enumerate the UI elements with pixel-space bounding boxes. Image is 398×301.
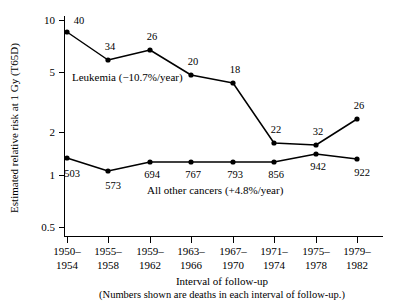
x-tick-label-bottom: 1974 <box>263 259 286 271</box>
y-tick-label: 5 <box>50 66 56 78</box>
x-axis-ticks <box>68 237 358 243</box>
data-point <box>313 142 318 147</box>
y-tick-label: 10 <box>44 14 56 26</box>
line-chart-canvas: 10 5 2 1 0.5 1950– 1954 195 <box>0 0 398 301</box>
data-point-label: 18 <box>230 64 241 75</box>
data-point-label: 793 <box>227 169 243 180</box>
x-tick-label-bottom: 1966 <box>180 259 203 271</box>
data-point-label: 922 <box>354 167 370 178</box>
data-point-label: 26 <box>147 31 158 42</box>
x-tick-label-bottom: 1954 <box>56 259 79 271</box>
y-axis-title: Estimated relative risk at 1 Gy (T65D) <box>8 43 21 213</box>
x-tick-label-bottom: 1970 <box>222 259 245 271</box>
x-tick-label-top: 1971– <box>260 245 288 257</box>
data-point-label: 26 <box>354 100 365 111</box>
data-point-label: 503 <box>64 168 80 179</box>
y-tick-label: 0.5 <box>41 221 55 233</box>
data-point <box>354 156 359 161</box>
axes: 10 5 2 1 0.5 1950– 1954 195 <box>41 14 383 271</box>
series-all-other-cancers: 503 573 694 767 793 856 942 922 All othe… <box>64 151 370 197</box>
data-point <box>230 159 235 164</box>
data-point-label: 694 <box>144 169 161 180</box>
data-point <box>147 47 152 52</box>
x-tick-label-bottom: 1962 <box>139 259 161 271</box>
data-point <box>271 159 276 164</box>
x-tick-label-top: 1979– <box>343 245 371 257</box>
data-point <box>354 116 359 121</box>
data-point-label: 856 <box>268 169 284 180</box>
y-tick-label: 2 <box>50 126 56 138</box>
data-point-label: 34 <box>105 41 116 52</box>
data-point <box>271 140 276 145</box>
data-point <box>105 168 110 173</box>
x-tick-label-top: 1975– <box>302 245 330 257</box>
x-tick-label-top: 1963– <box>177 245 205 257</box>
data-point <box>313 151 318 156</box>
y-axis-tick-labels: 10 5 2 1 0.5 <box>41 14 55 233</box>
x-tick-label-top: 1955– <box>94 245 122 257</box>
x-tick-label-bottom: 1958 <box>97 259 120 271</box>
data-point <box>64 155 69 160</box>
data-point <box>188 159 193 164</box>
data-point-label: 942 <box>310 161 326 172</box>
x-tick-label-bottom: 1978 <box>305 259 328 271</box>
x-axis-title: Interval of follow-up <box>176 275 269 287</box>
y-axis-ticks <box>59 21 65 228</box>
x-tick-label-top: 1950– <box>53 245 81 257</box>
chart-figure: 10 5 2 1 0.5 1950– 1954 195 <box>0 0 398 301</box>
data-point <box>147 159 152 164</box>
data-point-label: 32 <box>313 126 324 137</box>
data-point <box>64 29 69 34</box>
leukemia-series-annotation: Leukemia (−10.7%/year) <box>72 71 183 84</box>
series-leukemia: 40 34 26 20 18 22 32 26 Leukemia (−10.7%… <box>64 15 364 148</box>
data-point-label: 40 <box>74 15 85 26</box>
y-tick-label: 1 <box>50 169 56 181</box>
x-tick-label-top: 1967– <box>219 245 247 257</box>
x-tick-label-bottom: 1982 <box>346 259 368 271</box>
other-cancers-series-annotation: All other cancers (+4.8%/year) <box>147 184 284 197</box>
x-axis-tick-labels: 1950– 1954 1955– 1958 1959– 1962 1963– 1… <box>53 245 371 271</box>
data-point <box>188 72 193 77</box>
data-point <box>230 80 235 85</box>
data-point-label: 767 <box>185 169 201 180</box>
data-point-label: 22 <box>271 124 282 135</box>
data-point-label: 573 <box>105 180 121 191</box>
chart-caption: (Numbers shown are deaths in each interv… <box>99 289 345 301</box>
x-tick-label-top: 1959– <box>136 245 164 257</box>
data-point-label: 20 <box>188 56 199 67</box>
data-point <box>105 57 110 62</box>
